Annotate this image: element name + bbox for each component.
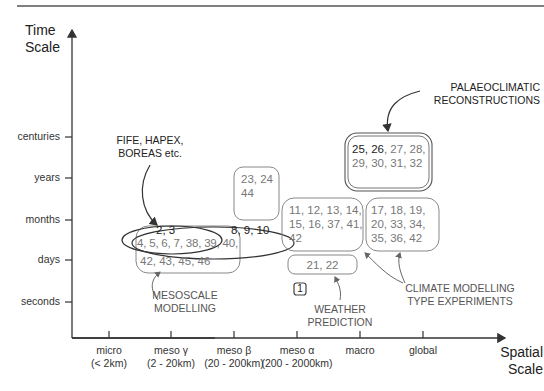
group-seconds-box: 1 xyxy=(294,283,306,295)
annotation-line: TYPE EXPERIMENTS xyxy=(405,295,515,308)
annotation-line: MESOSCALE xyxy=(150,289,220,302)
group-meso-gamma-top: 2, 3 xyxy=(156,223,175,237)
group-bold-part: 25, 26 xyxy=(352,143,384,155)
y-tick-years: years xyxy=(0,171,60,183)
group-palaeo: 25, 26, 27, 28, 29, 30, 31, 32 xyxy=(352,142,426,170)
group-macro: 17, 18, 19, 20, 33, 34, 35, 36, 42 xyxy=(371,203,425,245)
annotation-line: RECONSTRUCTIONS xyxy=(420,94,540,107)
group-line: 20, 33, 34, xyxy=(371,217,425,231)
group-meso-beta-box: 23, 24 44 xyxy=(241,172,273,200)
y-axis-title: Time Scale xyxy=(25,22,60,56)
y-tick-months: months xyxy=(0,213,60,225)
group-rest-part: , 27, 28, xyxy=(384,143,426,155)
annotation-line: FIFE, HAPEX, xyxy=(100,134,200,147)
group-line: 23, 24 xyxy=(241,172,273,186)
annotation-line: WEATHER xyxy=(305,303,375,316)
group-line: 15, 16, 37, 41, xyxy=(289,217,363,231)
y-tick-days: days xyxy=(0,253,60,265)
y-ticks xyxy=(65,137,72,302)
group-meso-alpha: 11, 12, 13, 14, 15, 16, 37, 41, 42 xyxy=(289,203,363,245)
annotation-line: PALAEOCLIMATIC xyxy=(420,81,540,94)
group-line: 17, 18, 19, xyxy=(371,203,425,217)
x-axis-title: Spatial Scale xyxy=(497,344,543,378)
group-meso-alpha-days: 21, 22 xyxy=(288,258,357,272)
annotation-palaeoclimatic: PALAEOCLIMATIC RECONSTRUCTIONS xyxy=(420,81,540,107)
x-axis-title-line2: Scale xyxy=(497,361,543,378)
x-axis-title-line1: Spatial xyxy=(497,344,543,361)
y-tick-centuries: centuries xyxy=(0,130,60,142)
group-line: 11, 12, 13, 14, xyxy=(289,203,363,217)
x-tick-range: (200 - 2000km) xyxy=(252,357,342,370)
group-line: 25, 26, 27, 28, xyxy=(352,142,426,156)
group-meso-gamma-mid: 4, 5, 6, 7, 38, 39, 40, xyxy=(137,236,238,250)
y-tick-seconds: seconds xyxy=(0,295,60,307)
annotation-climate: CLIMATE MODELLING TYPE EXPERIMENTS xyxy=(405,282,515,308)
annotation-line: MODELLING xyxy=(150,302,220,315)
annotation-field-experiments: FIFE, HAPEX, BOREAS etc. xyxy=(100,134,200,160)
y-axis-title-line2: Scale xyxy=(25,39,60,56)
x-ticks xyxy=(109,331,423,338)
group-line: 44 xyxy=(241,186,273,200)
group-line: 29, 30, 31, 32 xyxy=(352,156,426,170)
group-meso-gamma-bottom: 42, 43, 45, 46 xyxy=(140,254,210,268)
annotation-mesoscale: MESOSCALE MODELLING xyxy=(150,289,220,315)
annotation-line: CLIMATE MODELLING xyxy=(405,282,515,295)
x-tick-global: global xyxy=(378,344,468,357)
group-line: 42 xyxy=(289,231,363,245)
y-axis-title-line1: Time xyxy=(25,22,60,39)
annotation-weather: WEATHER PREDICTION xyxy=(305,303,375,329)
group-meso-beta-ellipse: 8, 9, 10 xyxy=(231,223,269,237)
annotation-line: BOREAS etc. xyxy=(100,147,200,160)
group-line: 35, 36, 42 xyxy=(371,231,425,245)
x-tick-label: global xyxy=(378,344,468,357)
annotation-line: PREDICTION xyxy=(305,316,375,329)
